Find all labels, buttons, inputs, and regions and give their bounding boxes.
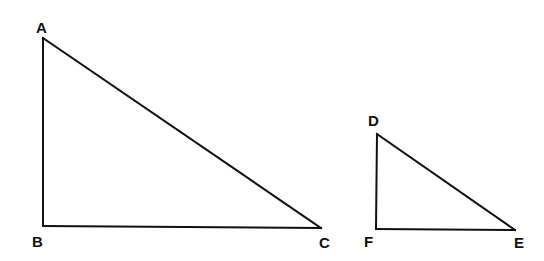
triangles-diagram: A B C D F E (0, 0, 544, 261)
edge-de (377, 134, 515, 230)
edge-df (376, 134, 377, 229)
vertex-label-a: A (36, 19, 47, 36)
edge-ac (43, 38, 321, 228)
triangle-abc: A B C (32, 19, 330, 251)
triangle-def: D F E (364, 112, 524, 251)
edge-bc (43, 226, 321, 228)
edge-fe (376, 229, 515, 230)
vertex-label-f: F (364, 233, 373, 250)
vertex-label-c: C (319, 234, 330, 251)
vertex-label-e: E (514, 234, 524, 251)
vertex-label-d: D (368, 112, 379, 129)
vertex-label-b: B (32, 233, 43, 250)
